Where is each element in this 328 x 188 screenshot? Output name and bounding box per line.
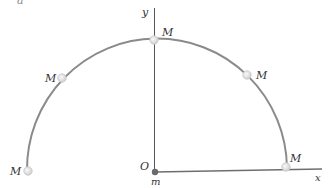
- origin-label: O: [140, 161, 149, 172]
- semicircle-diagram: a y x O m M M M M M: [0, 0, 328, 188]
- point-m-bottom-right: [282, 163, 290, 171]
- y-axis-label: y: [142, 7, 148, 18]
- point-m-bottom-left: [24, 167, 32, 175]
- point-label-bottom-right: M: [290, 153, 301, 164]
- x-axis-label: x: [315, 173, 321, 183]
- point-label-bottom-left: M: [10, 166, 21, 177]
- point-label-upper-left: M: [45, 73, 56, 84]
- point-m-upper-right: [243, 71, 251, 79]
- semicircle-path: [27, 39, 287, 171]
- origin-mass-dot: [152, 169, 158, 175]
- origin-mass-label: m: [151, 177, 160, 187]
- point-m-upper-left: [58, 74, 66, 82]
- x-axis: [155, 169, 322, 172]
- point-label-top: M: [162, 27, 173, 38]
- point-label-upper-right: M: [256, 70, 267, 81]
- point-m-top: [150, 36, 158, 44]
